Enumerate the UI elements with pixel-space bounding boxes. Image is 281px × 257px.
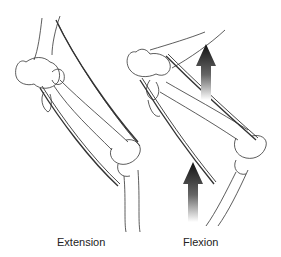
flexion-arrow-lower-icon <box>183 162 203 222</box>
flexion-arrow-upper-icon <box>196 44 216 100</box>
flexion-label: Flexion <box>183 236 218 248</box>
leg-diagram <box>0 0 281 257</box>
extension-leg <box>16 16 141 232</box>
extension-label: Extension <box>57 236 105 248</box>
